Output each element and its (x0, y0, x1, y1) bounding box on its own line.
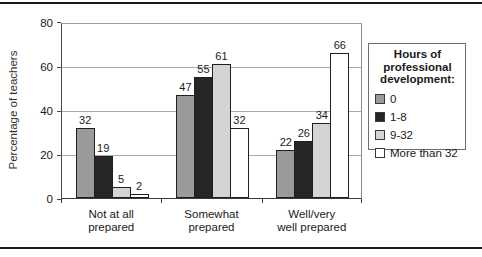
bar-value-label: 66 (323, 40, 357, 51)
bar-More than 32-1 (230, 128, 249, 198)
legend-item-label: 0 (390, 93, 396, 105)
bar-group-1: 47556132 (162, 24, 262, 198)
bar-value-label: 19 (86, 143, 120, 154)
x-tick-mark-0 (61, 199, 62, 203)
y-tick-label-60: 60 (20, 61, 53, 73)
x-tick-mark-3 (361, 199, 362, 203)
bar-group-0: 321952 (62, 24, 162, 198)
y-tick-label-0: 0 (20, 193, 53, 205)
legend-title: Hours of professional development: (375, 48, 460, 86)
bar-value-label: 32 (222, 115, 256, 126)
legend-item-label: 1-8 (390, 111, 407, 123)
bar-0-2 (276, 150, 295, 198)
legend-swatch-icon (375, 148, 385, 158)
x-tick-mark-1 (161, 199, 162, 203)
legend-item-1-8: 1-8 (375, 108, 460, 126)
y-tick-mark-80 (57, 22, 61, 23)
bottom-rule-divider (0, 247, 482, 249)
legend-item-More than 32: More than 32 (375, 144, 460, 162)
bar-1-8-1 (194, 77, 213, 198)
bar-1-8-2 (294, 141, 313, 198)
y-tick-mark-20 (57, 155, 61, 156)
legend-item-label: More than 32 (390, 147, 458, 159)
legend-items: 01-89-32More than 32 (375, 90, 460, 162)
y-tick-label-20: 20 (20, 149, 53, 161)
legend-box: Hours of professional development: 01-89… (368, 43, 466, 150)
plot-area: 3219524755613222263466 (61, 23, 362, 199)
bar-9-32-1 (212, 64, 231, 198)
y-tick-mark-40 (57, 111, 61, 112)
y-tick-label-80: 80 (20, 17, 53, 29)
x-tick-mark-2 (262, 199, 263, 203)
legend-item-0: 0 (375, 90, 460, 108)
legend-swatch-icon (375, 112, 385, 122)
bar-0-0 (76, 128, 95, 198)
category-label-2: Well/very well prepared (262, 208, 362, 234)
category-label-1: Somewhat prepared (161, 208, 261, 234)
bar-More than 32-2 (330, 53, 349, 198)
bar-value-label: 61 (204, 51, 238, 62)
bar-9-32-2 (312, 123, 331, 198)
y-axis-title: Percentage of teachers (7, 30, 19, 190)
category-label-0: Not at all prepared (61, 208, 161, 234)
legend-swatch-icon (375, 130, 385, 140)
legend-item-9-32: 9-32 (375, 126, 460, 144)
bar-More than 32-0 (130, 194, 149, 198)
legend-item-label: 9-32 (390, 129, 413, 141)
figure-container: Percentage of teachers 32195247556132222… (0, 0, 482, 257)
legend-swatch-icon (375, 94, 385, 104)
bar-0-1 (176, 95, 195, 198)
top-rule-divider (0, 2, 482, 4)
bar-value-label: 2 (122, 181, 156, 192)
bar-group-2: 22263466 (263, 24, 363, 198)
y-tick-mark-60 (57, 67, 61, 68)
bar-value-label: 32 (68, 115, 102, 126)
y-tick-label-40: 40 (20, 105, 53, 117)
